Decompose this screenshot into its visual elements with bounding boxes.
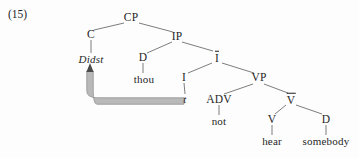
node-i: I [182,72,186,84]
node-somebody: somebody [303,136,350,147]
branch-cp-c [94,23,124,30]
branch-cp-ip [139,23,173,32]
node-didst: Didst [79,54,104,65]
node-v-bar: V [287,92,296,107]
branch-ip-d_subj [147,42,172,53]
branch-ip-ibar [182,42,213,51]
node-hear: hear [262,136,282,147]
node-d-subject: D [139,52,148,64]
node-ip: IP [172,31,183,43]
node-thou: thou [134,74,154,85]
branch-ibar-i [188,63,212,73]
branch-vbar-d_obj [296,105,322,114]
node-v: V [268,114,277,126]
node-trace: t [183,94,186,105]
node-i-bar: I [215,50,219,65]
node-adv: ADV [206,94,232,106]
node-not: not [212,116,227,127]
node-c: C [87,29,95,41]
branch-lines [91,23,326,135]
node-vp: VP [251,72,266,84]
node-cp: CP [124,12,138,24]
branch-ibar-vp [222,63,254,73]
node-d-object: D [322,114,331,126]
syntax-tree-figure: (15) CP C Didst IP D thou I I t VP ADV n… [0,0,359,158]
branch-vp-vbar [264,84,288,93]
